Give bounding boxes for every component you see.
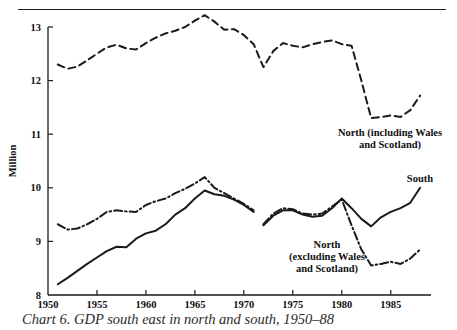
series-annotation-1: North (including Walesand Scotland) (338, 127, 442, 151)
x-tick-label: 1960 (135, 299, 156, 310)
series-path-2-seg1 (58, 190, 254, 284)
y-tick-label: 9 (36, 236, 41, 247)
y-tick-label: 11 (31, 129, 41, 140)
plot-area: 8910111213195019551960196519701975198019… (0, 0, 457, 310)
x-tick-label: 1955 (86, 299, 107, 310)
x-tick-label: 1985 (380, 299, 401, 310)
figure-caption: Chart 6. GDP south east in north and sou… (22, 311, 442, 330)
svg-text:North (including Wales: North (including Wales (338, 127, 442, 139)
x-tick-label: 1965 (184, 299, 205, 310)
y-tick-label: 12 (31, 75, 42, 86)
y-axis-title: Million (7, 145, 18, 178)
series-annotation-3: North(excluding Walesand Scotland) (289, 239, 365, 275)
x-tick-label: 1975 (282, 299, 303, 310)
y-tick-label: 13 (31, 22, 42, 33)
series-path-2-seg2 (263, 188, 420, 227)
svg-text:North: North (314, 239, 341, 250)
x-tick-label: 1970 (233, 299, 254, 310)
series-annotation-2: South (407, 173, 433, 184)
y-tick-label: 10 (31, 182, 42, 193)
series-path-1 (58, 15, 420, 118)
series-path-3-seg1 (58, 177, 254, 230)
svg-text:(excluding Wales: (excluding Wales (289, 251, 365, 263)
svg-text:South: South (407, 173, 433, 184)
x-tick-label: 1980 (331, 299, 352, 310)
svg-text:and Scotland): and Scotland) (296, 263, 359, 275)
svg-text:and Scotland): and Scotland) (359, 139, 422, 151)
line-chart-svg: 8910111213195019551960196519701975198019… (0, 0, 457, 310)
x-tick-label: 1950 (38, 299, 59, 310)
